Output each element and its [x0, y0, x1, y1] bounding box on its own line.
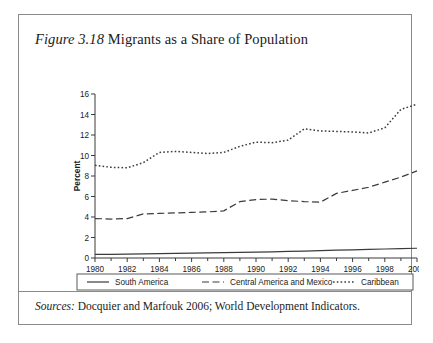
source-divider [19, 291, 411, 292]
legend-label-0: South America [115, 278, 169, 287]
y-tick-label: 14 [80, 111, 90, 120]
y-tick-label: 4 [84, 213, 89, 222]
source-note: Sources: Docquier and Marfouk 2006; Worl… [35, 300, 360, 312]
y-tick-label: 8 [84, 172, 89, 181]
x-axis: 1980198219841986198819901992199419961998… [86, 258, 419, 274]
chart-series-group [95, 104, 417, 254]
y-tick-label: 2 [84, 234, 89, 243]
legend-label-1: Central America and Mexico [230, 278, 333, 287]
x-tick-label: 2000 [408, 265, 419, 274]
line-chart: 0246810121416Percent 1980198219841986198… [71, 76, 419, 302]
chart-legend: South AmericaCentral America and MexicoC… [77, 274, 413, 290]
y-tick-label: 10 [80, 152, 90, 161]
figure-number: Figure 3.18 [35, 31, 104, 47]
x-tick-label: 1986 [182, 265, 201, 274]
legend-label-2: Caribbean [361, 278, 399, 287]
x-tick-label: 1982 [118, 265, 137, 274]
figure-title-text: Migrants as a Share of Population [108, 31, 308, 47]
page-title: Figure 3.18 Migrants as a Share of Popul… [35, 31, 308, 48]
series-line-0 [95, 248, 417, 254]
figure-page: Figure 3.18 Migrants as a Share of Popul… [0, 0, 433, 343]
x-tick-label: 1990 [247, 265, 266, 274]
x-tick-label: 1994 [311, 265, 330, 274]
x-tick-label: 1988 [215, 265, 234, 274]
chart-plot-area: 0246810121416Percent 1980198219841986198… [71, 76, 419, 302]
y-tick-label: 6 [84, 193, 89, 202]
x-tick-label: 1998 [376, 265, 395, 274]
figure-container: Figure 3.18 Migrants as a Share of Popul… [18, 14, 412, 325]
series-line-2 [95, 104, 417, 168]
y-axis-title: Percent [72, 160, 82, 191]
x-tick-label: 1992 [279, 265, 298, 274]
source-label: Sources: [35, 300, 75, 312]
x-tick-label: 1980 [86, 265, 105, 274]
y-tick-label: 12 [80, 131, 90, 140]
x-tick-label: 1984 [150, 265, 169, 274]
series-line-1 [95, 171, 417, 219]
y-axis: 0246810121416Percent [72, 90, 95, 263]
x-tick-label: 1996 [343, 265, 362, 274]
y-tick-label: 16 [80, 90, 90, 99]
source-text: Docquier and Marfouk 2006; World Develop… [78, 300, 360, 312]
y-tick-label: 0 [84, 254, 89, 263]
